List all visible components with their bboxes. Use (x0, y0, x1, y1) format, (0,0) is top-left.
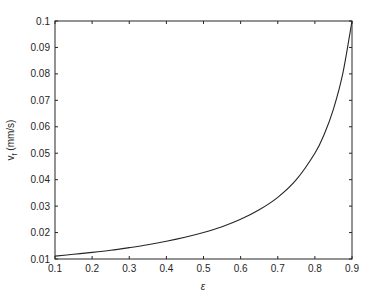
y-tick-label: 0.1 (36, 16, 50, 27)
x-tick-label: 0.7 (271, 263, 285, 274)
y-tick-label: 0.02 (31, 227, 51, 238)
x-tick-label: 0.5 (197, 263, 211, 274)
x-tick-label: 0.4 (159, 263, 173, 274)
x-tick-label: 0.2 (85, 263, 99, 274)
x-axis-label: ε (201, 281, 206, 292)
x-tick-label: 0.3 (122, 263, 136, 274)
x-tick-label: 0.1 (48, 263, 62, 274)
line-chart: 0.10.20.30.40.50.60.70.80.9 0.010.020.03… (0, 0, 371, 305)
y-tick-label: 0.09 (31, 42, 51, 53)
y-axis-label-unit: (mm/s) (5, 120, 16, 154)
y-tick-label: 0.01 (31, 254, 51, 265)
y-tick-label: 0.07 (31, 95, 51, 106)
y-tick-label: 0.04 (31, 174, 51, 185)
y-tick-label: 0.03 (31, 201, 51, 212)
y-tick-label: 0.05 (31, 148, 51, 159)
y-tick-label: 0.06 (31, 121, 51, 132)
x-tick-label: 0.8 (308, 263, 322, 274)
x-tick-label: 0.9 (345, 263, 359, 274)
y-tick-label: 0.08 (31, 68, 51, 79)
x-tick-label: 0.6 (234, 263, 248, 274)
